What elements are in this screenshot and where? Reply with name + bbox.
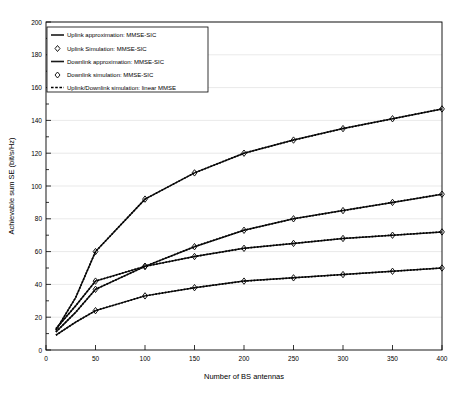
y-tick-label: 140: [31, 117, 42, 124]
x-tick-label: 400: [437, 355, 448, 362]
legend-label: Downlink approximation: MMSE-SIC: [67, 59, 165, 65]
legend-label: Downlink simulation: MMSE-SIC: [67, 72, 154, 78]
chart-legend[interactable]: Uplink approximation: MMSE-SIC Uplink Si…: [47, 27, 208, 92]
legend-item-downlink-simulation[interactable]: Downlink simulation: MMSE-SIC: [55, 72, 154, 78]
legend-label: Uplink/Downlink simulation: linear MMSE: [67, 85, 176, 91]
x-tick-label: 50: [92, 355, 100, 362]
x-tick-label: 200: [239, 355, 250, 362]
legend-item-uplink-approximation[interactable]: Uplink approximation: MMSE-SIC: [51, 32, 157, 38]
chart-canvas: 200 180 160 140 120 100 80 60 40 20 0 0 …: [0, 0, 456, 407]
x-tick-label: 150: [189, 355, 200, 362]
y-tick-label: 160: [31, 84, 42, 91]
y-tick-label: 40: [35, 281, 43, 288]
legend-label: Uplink Simulation: MMSE-SIC: [67, 46, 147, 52]
legend-item-downlink-approximation[interactable]: Downlink approximation: MMSE-SIC: [51, 59, 165, 65]
x-tick-label: 350: [387, 355, 398, 362]
x-axis-title: Number of BS antennas: [204, 372, 284, 381]
x-tick-label: 250: [288, 355, 299, 362]
legend-label: Uplink approximation: MMSE-SIC: [67, 32, 157, 38]
y-tick-label: 0: [38, 347, 42, 354]
y-tick-label: 180: [31, 51, 42, 58]
x-tick-label: 300: [338, 355, 349, 362]
legend-item-uplink-simulation[interactable]: Uplink Simulation: MMSE-SIC: [55, 46, 147, 52]
chart-figure: 200 180 160 140 120 100 80 60 40 20 0 0 …: [0, 0, 456, 407]
y-tick-labels: 200 180 160 140 120 100 80 60 40 20 0: [31, 19, 42, 354]
y-axis-title: Achievable sum SE (bit/s/Hz): [7, 137, 16, 235]
legend-item-linear-mmse[interactable]: Uplink/Downlink simulation: linear MMSE: [51, 85, 176, 91]
y-tick-label: 80: [35, 215, 43, 222]
y-tick-label: 200: [31, 19, 42, 26]
y-tick-label: 100: [31, 183, 42, 190]
x-tick-label: 0: [44, 355, 48, 362]
y-tick-label: 20: [35, 314, 43, 321]
x-tick-label: 100: [140, 355, 151, 362]
y-tick-label: 120: [31, 150, 42, 157]
y-tick-label: 60: [35, 248, 43, 255]
x-tick-labels: 0 50 100 150 200 250 300 350 400: [44, 355, 448, 362]
